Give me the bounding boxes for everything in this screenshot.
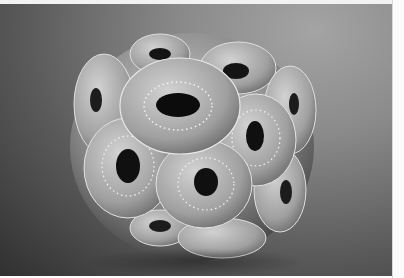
sem-photo xyxy=(0,4,392,276)
sphere-shadow xyxy=(86,248,306,276)
plate-top-center xyxy=(120,58,240,154)
coccolithophore-illustration xyxy=(0,4,392,276)
right-border xyxy=(392,0,404,278)
